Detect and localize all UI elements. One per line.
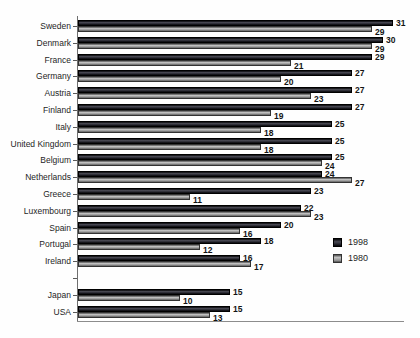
bar-1980-luxembourg xyxy=(78,211,311,217)
bar-1980-belgium xyxy=(78,160,322,166)
category-label-spain: Spain xyxy=(1,224,71,233)
bar-1980-spain xyxy=(78,228,240,234)
category-label-austria: Austria xyxy=(1,89,71,98)
bar-1980-portugal xyxy=(78,244,200,250)
value-label-1980-greece: 11 xyxy=(193,196,202,204)
legend-item-1980: 1980 xyxy=(333,250,368,266)
category-label-usa: USA xyxy=(1,308,71,317)
value-label-1998-usa: 15 xyxy=(233,305,242,313)
category-label-finland: Finland xyxy=(1,106,71,115)
grouped-bar-chart: Sweden3129Denmark3029France2921Germany27… xyxy=(0,0,420,338)
value-label-1980-spain: 16 xyxy=(243,230,252,238)
bar-1980-italy xyxy=(78,127,261,133)
bar-1980-netherlands xyxy=(78,177,352,183)
legend-label-1980: 1980 xyxy=(348,254,368,263)
value-label-1998-austria: 27 xyxy=(355,86,364,94)
category-label-netherlands: Netherlands xyxy=(1,173,71,182)
value-label-1980-portugal: 12 xyxy=(203,246,212,254)
category-label-japan: Japan xyxy=(1,291,71,300)
category-label-germany: Germany xyxy=(1,72,71,81)
bar-1980-usa xyxy=(78,312,210,318)
value-label-1980-finland: 19 xyxy=(274,112,283,120)
value-label-1998-italy: 25 xyxy=(335,120,344,128)
value-label-1980-ireland: 17 xyxy=(254,263,263,271)
value-label-1998-france: 29 xyxy=(375,53,384,61)
bar-1980-germany xyxy=(78,76,281,82)
value-label-1998-japan: 15 xyxy=(233,288,242,296)
value-label-1980-united-kingdom: 18 xyxy=(264,146,273,154)
category-label-sweden: Sweden xyxy=(1,22,71,31)
value-label-1998-portugal: 18 xyxy=(264,237,273,245)
category-label-greece: Greece xyxy=(1,190,71,199)
value-label-1998-united-kingdom: 25 xyxy=(335,137,344,145)
category-label-ireland: Ireland xyxy=(1,257,71,266)
value-label-1980-luxembourg: 23 xyxy=(314,213,323,221)
chart-legend: 1998 1980 xyxy=(333,234,368,266)
value-label-1998-belgium: 25 xyxy=(335,153,344,161)
value-label-1980-germany: 20 xyxy=(284,78,293,86)
bar-1980-greece xyxy=(78,194,190,200)
value-label-1998-greece: 23 xyxy=(314,187,323,195)
bar-1980-france xyxy=(78,60,291,66)
legend-swatch-1980 xyxy=(333,254,342,263)
legend-swatch-1998 xyxy=(333,238,342,247)
bar-1980-japan xyxy=(78,295,180,301)
value-label-1998-spain: 20 xyxy=(284,221,293,229)
value-label-1980-sweden: 29 xyxy=(375,28,384,36)
value-label-1980-japan: 10 xyxy=(183,297,192,305)
value-label-1980-austria: 23 xyxy=(314,95,323,103)
bar-1980-sweden xyxy=(78,26,372,32)
category-label-italy: Italy xyxy=(1,123,71,132)
bar-1980-united-kingdom xyxy=(78,144,261,150)
category-label-united-kingdom: United Kingdom xyxy=(1,140,71,149)
value-label-1998-denmark: 30 xyxy=(386,36,395,44)
bar-1980-finland xyxy=(78,110,271,116)
x-axis-line xyxy=(77,321,404,322)
value-label-1980-netherlands: 27 xyxy=(355,179,364,187)
bar-1980-ireland xyxy=(78,261,251,267)
legend-item-1998: 1998 xyxy=(333,234,368,250)
value-label-1998-sweden: 31 xyxy=(396,19,405,27)
bar-1980-denmark xyxy=(78,43,372,49)
value-label-1998-finland: 27 xyxy=(355,103,364,111)
category-label-belgium: Belgium xyxy=(1,156,71,165)
category-label-luxembourg: Luxembourg xyxy=(1,207,71,216)
category-label-portugal: Portugal xyxy=(1,240,71,249)
y-axis-line xyxy=(77,16,78,321)
value-label-1980-italy: 18 xyxy=(264,129,273,137)
bar-1980-austria xyxy=(78,93,311,99)
category-label-denmark: Denmark xyxy=(1,39,71,48)
value-label-1998-germany: 27 xyxy=(355,69,364,77)
legend-label-1998: 1998 xyxy=(348,238,368,247)
category-label-france: France xyxy=(1,56,71,65)
value-label-1980-france: 21 xyxy=(294,62,303,70)
